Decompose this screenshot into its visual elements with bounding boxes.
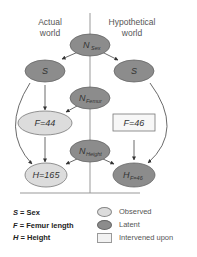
node-n-sex: N Sex [70,34,110,56]
edge-nheight-h-actual [66,159,77,164]
legend-intervened: Intervened upon [97,231,173,244]
legend-latent: Latent [97,218,173,231]
svg-text:F=46: F=46 [130,175,144,181]
variable-legend: S = Sex F = Femur length H = Height [13,207,74,245]
node-h-hypothetical: H F=46 [113,163,155,187]
node-h-actual: H=165 [25,163,67,187]
legend-label: Intervened upon [119,233,173,242]
svg-text:Sex: Sex [91,45,101,51]
intervened-swatch-icon [97,233,112,243]
node-n-height: N Height [70,140,110,162]
svg-text:N: N [83,40,90,50]
edge-nsex-s-hypo [102,52,118,60]
svg-text:S: S [131,66,137,76]
legend-var-sex: S = Sex [13,207,74,220]
svg-text:N: N [79,93,86,103]
latent-swatch-icon [97,220,112,230]
legend-var-femur: F = Femur length [13,220,74,233]
observed-swatch-icon [97,207,112,217]
svg-text:H=165: H=165 [33,170,61,180]
svg-text:Height: Height [86,151,102,157]
svg-text:F=44: F=44 [35,118,56,128]
edge-nfemur-f-actual [66,106,77,112]
node-n-femur: N Femur [70,87,110,109]
legend-label: Observed [119,207,152,216]
node-s-hypothetical: S [114,60,154,82]
legend-observed: Observed [97,205,173,218]
node-type-legend: Observed Latent Intervened upon [97,205,173,244]
edge-nheight-h-hypo [103,159,114,164]
svg-text:S: S [42,66,48,76]
node-s-actual: S [25,60,65,82]
svg-text:Femur: Femur [86,98,103,104]
node-f-hypothetical: F=46 [113,114,155,131]
svg-text:F=46: F=46 [124,118,145,128]
svg-text:H: H [123,170,130,180]
node-f-actual: F=44 [18,111,72,135]
legend-label: Latent [119,220,140,229]
legend-var-height: H = Height [13,232,74,245]
svg-text:N: N [79,146,86,156]
